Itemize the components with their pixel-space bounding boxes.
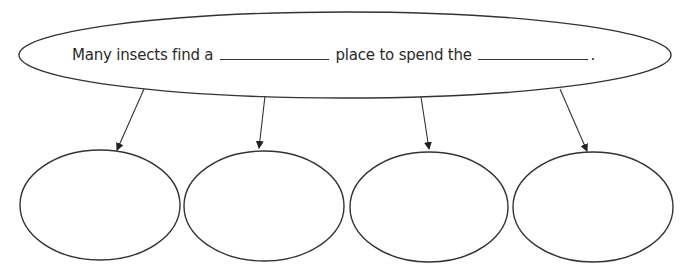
fill-in-blank-1[interactable]	[220, 45, 329, 60]
sentence-part-1: Many insects find a	[72, 46, 213, 64]
arrow-3	[421, 97, 429, 149]
sentence-part-2: place to spend the	[336, 46, 472, 64]
arrow-1	[117, 89, 144, 150]
arrow-4	[560, 89, 587, 151]
detail-oval-3[interactable]	[350, 152, 508, 262]
detail-oval-1[interactable]	[20, 150, 180, 260]
main-idea-sentence: Many insects find a place to spend the .	[72, 45, 595, 65]
fill-in-blank-2[interactable]	[478, 45, 588, 60]
arrow-2	[259, 96, 265, 148]
sentence-period: .	[590, 46, 595, 64]
detail-oval-4[interactable]	[513, 152, 673, 262]
detail-oval-2[interactable]	[184, 151, 344, 261]
organizer-shapes	[0, 0, 684, 271]
graphic-organizer: Many insects find a place to spend the .	[0, 0, 684, 271]
